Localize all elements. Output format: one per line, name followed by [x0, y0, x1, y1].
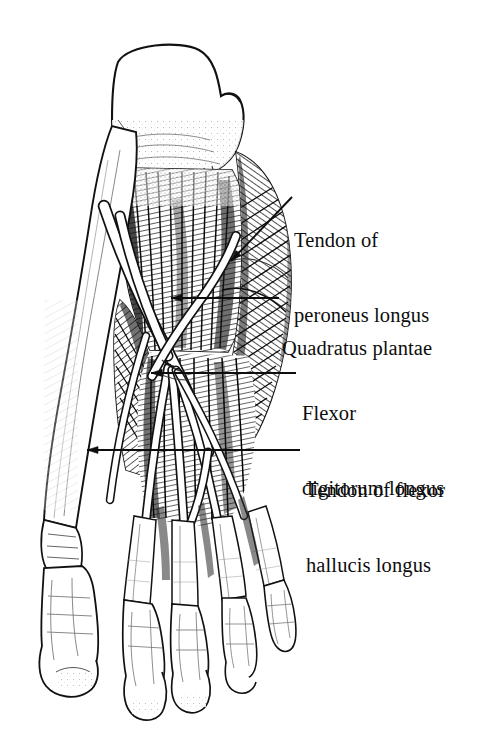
label-line-1: Flexor — [302, 401, 444, 426]
label-line-2: hallucis longus — [306, 553, 445, 578]
hallux — [39, 566, 98, 697]
label-tendon-of-flexor-hallucis-longus: Tendon of flexor hallucis longus — [306, 428, 445, 628]
label-line-1: Tendon of — [294, 228, 429, 253]
figure-page: Tendon of peroneus longus Quadratus plan… — [0, 0, 486, 751]
label-line-1: Tendon of flexor — [306, 478, 445, 503]
